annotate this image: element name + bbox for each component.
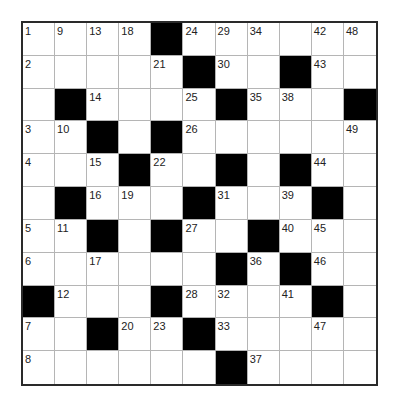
- grid-cell[interactable]: [248, 286, 280, 319]
- grid-cell[interactable]: 41: [280, 286, 312, 319]
- grid-cell[interactable]: 40: [280, 220, 312, 253]
- grid-cell[interactable]: [312, 351, 344, 384]
- grid-cell[interactable]: [280, 121, 312, 154]
- grid-cell[interactable]: 45: [312, 220, 344, 253]
- grid-cell[interactable]: 7: [23, 318, 55, 351]
- grid-cell[interactable]: [23, 89, 55, 122]
- grid-cell[interactable]: [119, 121, 151, 154]
- grid-cell[interactable]: [183, 351, 215, 384]
- grid-cell[interactable]: 2: [23, 56, 55, 89]
- grid-cell[interactable]: [280, 23, 312, 56]
- grid-cell[interactable]: 49: [344, 121, 376, 154]
- grid-cell[interactable]: [119, 351, 151, 384]
- clue-number: 48: [346, 26, 358, 37]
- grid-cell[interactable]: [55, 253, 87, 286]
- grid-cell[interactable]: [87, 56, 119, 89]
- grid-cell[interactable]: 20: [119, 318, 151, 351]
- grid-cell[interactable]: 31: [216, 187, 248, 220]
- clue-number: 17: [89, 256, 101, 267]
- grid-cell[interactable]: 3: [23, 121, 55, 154]
- grid-cell[interactable]: [344, 351, 376, 384]
- grid-cell[interactable]: 38: [280, 89, 312, 122]
- grid-cell[interactable]: 11: [55, 220, 87, 253]
- grid-cell[interactable]: 33: [216, 318, 248, 351]
- grid-cell[interactable]: [312, 121, 344, 154]
- grid-cell[interactable]: [280, 318, 312, 351]
- grid-cell[interactable]: 10: [55, 121, 87, 154]
- grid-cell[interactable]: [344, 286, 376, 319]
- grid-cell[interactable]: [119, 220, 151, 253]
- grid-cell[interactable]: [119, 89, 151, 122]
- grid-cell[interactable]: [55, 56, 87, 89]
- grid-cell[interactable]: 37: [248, 351, 280, 384]
- grid-cell[interactable]: 42: [312, 23, 344, 56]
- grid-cell[interactable]: [151, 89, 183, 122]
- grid-cell[interactable]: 26: [183, 121, 215, 154]
- grid-cell[interactable]: 32: [216, 286, 248, 319]
- grid-cell[interactable]: 18: [119, 23, 151, 56]
- grid-cell[interactable]: 47: [312, 318, 344, 351]
- grid-cell[interactable]: [87, 351, 119, 384]
- grid-cell[interactable]: 21: [151, 56, 183, 89]
- grid-cell[interactable]: [151, 187, 183, 220]
- grid-cell[interactable]: 17: [87, 253, 119, 286]
- grid-cell[interactable]: [344, 318, 376, 351]
- grid-cell[interactable]: 9: [55, 23, 87, 56]
- grid-cell[interactable]: [55, 154, 87, 187]
- grid-cell[interactable]: 19: [119, 187, 151, 220]
- grid-cell[interactable]: 34: [248, 23, 280, 56]
- grid-cell[interactable]: [344, 187, 376, 220]
- grid-cell[interactable]: 22: [151, 154, 183, 187]
- grid-cell[interactable]: [344, 56, 376, 89]
- grid-cell[interactable]: 27: [183, 220, 215, 253]
- grid-cell[interactable]: 15: [87, 154, 119, 187]
- grid-cell[interactable]: 44: [312, 154, 344, 187]
- grid-cell[interactable]: [248, 121, 280, 154]
- grid-cell[interactable]: [87, 286, 119, 319]
- grid-cell[interactable]: 36: [248, 253, 280, 286]
- grid-cell[interactable]: [55, 351, 87, 384]
- grid-cell[interactable]: 5: [23, 220, 55, 253]
- grid-cell[interactable]: [55, 318, 87, 351]
- grid-cell[interactable]: 4: [23, 154, 55, 187]
- grid-cell[interactable]: [183, 253, 215, 286]
- grid-cell[interactable]: 12: [55, 286, 87, 319]
- grid-cell[interactable]: [183, 154, 215, 187]
- grid-cell[interactable]: [248, 56, 280, 89]
- grid-cell[interactable]: 16: [87, 187, 119, 220]
- grid-cell[interactable]: [344, 253, 376, 286]
- grid-cell[interactable]: [119, 286, 151, 319]
- grid-cell[interactable]: 8: [23, 351, 55, 384]
- grid-cell[interactable]: [312, 89, 344, 122]
- grid-cell[interactable]: 29: [216, 23, 248, 56]
- grid-cell[interactable]: [248, 187, 280, 220]
- clue-number: 25: [185, 92, 197, 103]
- grid-cell[interactable]: 1: [23, 23, 55, 56]
- grid-cell[interactable]: 23: [151, 318, 183, 351]
- grid-cell[interactable]: 24: [183, 23, 215, 56]
- grid-cell[interactable]: 25: [183, 89, 215, 122]
- grid-cell[interactable]: 39: [280, 187, 312, 220]
- grid-cell[interactable]: 30: [216, 56, 248, 89]
- clue-number: 2: [25, 59, 31, 70]
- grid-cell[interactable]: [280, 351, 312, 384]
- grid-cell[interactable]: [248, 154, 280, 187]
- grid-cell[interactable]: [151, 253, 183, 286]
- grid-cell[interactable]: 46: [312, 253, 344, 286]
- grid-cell[interactable]: [344, 220, 376, 253]
- grid-cell[interactable]: 13: [87, 23, 119, 56]
- grid-cell[interactable]: [216, 220, 248, 253]
- grid-cell[interactable]: 14: [87, 89, 119, 122]
- grid-cell[interactable]: 48: [344, 23, 376, 56]
- grid-cell[interactable]: 28: [183, 286, 215, 319]
- grid-cell[interactable]: [119, 253, 151, 286]
- grid-cell[interactable]: [344, 154, 376, 187]
- grid-cell[interactable]: [119, 56, 151, 89]
- grid-cell[interactable]: [248, 318, 280, 351]
- grid-cell[interactable]: [23, 187, 55, 220]
- grid-cell[interactable]: 35: [248, 89, 280, 122]
- grid-cell[interactable]: 6: [23, 253, 55, 286]
- grid-cell[interactable]: 43: [312, 56, 344, 89]
- grid-cell[interactable]: [151, 351, 183, 384]
- grid-cell[interactable]: [216, 121, 248, 154]
